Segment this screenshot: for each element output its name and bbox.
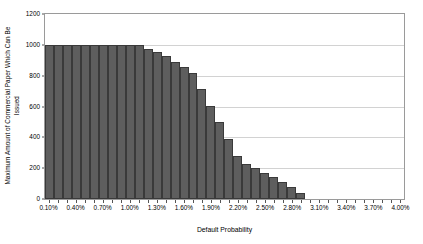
x-axis-tick-mark	[139, 200, 140, 203]
x-axis-tick-mark	[265, 200, 266, 203]
bar	[135, 45, 144, 199]
x-axis-tick-mark	[274, 200, 275, 203]
bar-slot	[180, 14, 189, 199]
bar-slot	[269, 14, 278, 199]
y-axis-tick-label: 400	[29, 134, 40, 140]
x-axis-tick-mark	[220, 200, 221, 203]
bar-slot	[233, 14, 242, 199]
x-axis-tick-mark	[319, 200, 320, 203]
bar-slot	[144, 14, 153, 199]
x-axis-tick-mark	[94, 200, 95, 203]
x-axis-tick-mark	[229, 200, 230, 203]
bar-slot	[305, 14, 314, 199]
x-axis-tick-mark	[166, 200, 167, 203]
y-axis-title-line-1: Maximum Amount of Commercial Paper Which…	[4, 27, 13, 185]
bar-slot	[341, 14, 350, 199]
bar	[206, 106, 215, 199]
bar-slot	[386, 14, 395, 199]
bar-chart-figure: Maximum Amount of Commercial Paper Which…	[0, 0, 423, 244]
bar	[162, 56, 171, 199]
bar	[180, 67, 189, 199]
x-axis-tick-mark	[130, 200, 131, 203]
y-axis-tick-label: 200	[29, 165, 40, 171]
x-axis-tick-mark	[58, 200, 59, 203]
x-axis-tick-mark	[184, 200, 185, 203]
x-axis-tick-label: 2.20%	[229, 204, 247, 211]
x-axis-tick-label: 1.60%	[175, 204, 193, 211]
x-axis-tick-mark	[49, 200, 50, 203]
bar-slot	[117, 14, 126, 199]
x-axis-tick-mark	[355, 200, 356, 203]
y-axis-tick-label: 1200	[26, 11, 40, 17]
bar-slot	[260, 14, 269, 199]
bar-slot	[395, 14, 404, 199]
x-axis-tick-mark	[148, 200, 149, 203]
y-axis-tick-label: 0	[36, 196, 40, 202]
x-axis-tick-label: 2.50%	[256, 204, 274, 211]
x-axis-tick-mark	[337, 200, 338, 203]
bar	[45, 45, 54, 199]
bar-slot	[350, 14, 359, 199]
bar-slot	[126, 14, 135, 199]
x-axis-tick-mark	[310, 200, 311, 203]
x-axis-tick-mark	[238, 200, 239, 203]
x-axis-tick-mark	[85, 200, 86, 203]
y-axis-tick-label: 1000	[26, 42, 40, 48]
x-axis-tick-mark	[112, 200, 113, 203]
x-axis-tick-mark	[283, 200, 284, 203]
x-axis-tick-mark	[400, 200, 401, 203]
bar-slot	[323, 14, 332, 199]
bar	[117, 45, 126, 199]
bar	[63, 45, 72, 199]
bar	[242, 164, 251, 199]
bar-slot	[242, 14, 251, 199]
bar-slot	[99, 14, 108, 199]
bar-slot	[287, 14, 296, 199]
bar-slot	[359, 14, 368, 199]
bar	[90, 45, 99, 199]
x-axis-tick-mark	[301, 200, 302, 203]
bar-slot	[251, 14, 260, 199]
x-axis-tick-label: 1.30%	[148, 204, 166, 211]
x-axis-tick-label: 2.80%	[283, 204, 301, 211]
bar	[224, 139, 233, 199]
bar-slot	[171, 14, 180, 199]
bar-series	[45, 14, 404, 199]
x-axis-tick-label: 0.40%	[67, 204, 85, 211]
bar	[251, 168, 260, 199]
bar	[233, 156, 242, 199]
x-axis-tick-mark	[193, 200, 194, 203]
bar	[260, 173, 269, 199]
bar-slot	[332, 14, 341, 199]
bar	[54, 45, 63, 199]
x-axis-tick-mark	[121, 200, 122, 203]
bar	[99, 45, 108, 199]
x-axis-tick-mark	[328, 200, 329, 203]
bar-slot	[377, 14, 386, 199]
bar-slot	[278, 14, 287, 199]
x-axis-tick-mark	[202, 200, 203, 203]
x-axis-tick-mark	[157, 200, 158, 203]
x-axis-tick-mark	[211, 200, 212, 203]
x-axis-tick-mark	[391, 200, 392, 203]
bar-slot	[54, 14, 63, 199]
bar-slot	[215, 14, 224, 199]
bar	[215, 122, 224, 199]
bar-slot	[368, 14, 377, 199]
bar	[153, 52, 162, 199]
bar-slot	[296, 14, 305, 199]
x-axis-tick-mark	[292, 200, 293, 203]
bar-slot	[197, 14, 206, 199]
x-axis-tick-mark	[382, 200, 383, 203]
x-axis-tick-mark	[67, 200, 68, 203]
bar	[287, 187, 296, 199]
x-axis-tick-label: 3.10%	[310, 204, 328, 211]
x-axis-tick-label: 4.00%	[391, 204, 409, 211]
x-axis-tick-mark	[247, 200, 248, 203]
x-axis-tick-label: 1.90%	[202, 204, 220, 211]
bar	[81, 45, 90, 199]
bar-slot	[314, 14, 323, 199]
x-axis-tick-label: 0.70%	[94, 204, 112, 211]
x-axis-tick-label: 3.70%	[364, 204, 382, 211]
bar	[108, 45, 117, 199]
